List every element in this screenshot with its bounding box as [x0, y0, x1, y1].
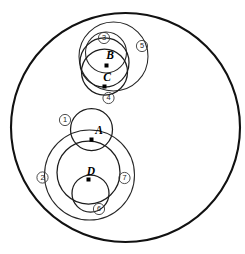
label-D: D — [86, 165, 96, 177]
label-C: C — [103, 71, 111, 83]
dot-C — [103, 85, 107, 89]
label-A: A — [94, 124, 103, 136]
label-num-3: 3 — [102, 33, 106, 42]
label-num-4: 4 — [106, 93, 110, 102]
dot-A — [90, 138, 94, 142]
figure-root: A B C D 1 2 3 4 — [0, 0, 245, 254]
dot-B — [105, 64, 109, 68]
label-num-5: 5 — [140, 41, 144, 50]
label-num-1: 1 — [63, 115, 67, 124]
dot-D — [87, 178, 91, 182]
circle-packing-diagram: A B C D 1 2 3 4 — [0, 0, 245, 254]
label-num-6: 6 — [97, 204, 101, 213]
label-num-7: 7 — [122, 173, 126, 182]
label-num-2: 2 — [40, 173, 44, 182]
label-B: B — [105, 49, 114, 61]
